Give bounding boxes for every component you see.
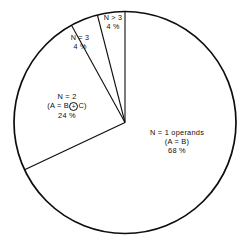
slice-label-n2: N = 2 (A = B+C) 24 % [26, 92, 108, 120]
pie-chart-figure: N = 1 operands (A = B) 68 % N = 2 (A = B… [0, 0, 250, 248]
slice-label-n2-percent: 24 % [26, 111, 108, 120]
slice-label-n3: N = 3 4 % [58, 34, 102, 52]
slice-label-ngt3-percent: 4 % [95, 23, 131, 32]
slice-label-n2-expression: (A = B+C) [26, 101, 108, 111]
slice-label-n1-expression: (A = B) [134, 137, 220, 146]
slice-label-n2-expr-open: (A = B [47, 101, 69, 110]
slice-label-n1-percent: 68 % [134, 146, 220, 155]
slice-label-n1: N = 1 operands (A = B) 68 % [134, 128, 220, 155]
slice-label-n2-expr-close: C) [78, 101, 86, 110]
slice-label-ngt3: N > 3 4 % [95, 14, 131, 32]
pie-chart-graphic [0, 0, 250, 248]
slice-label-n1-line1: N = 1 operands [134, 128, 220, 137]
slice-label-n3-percent: 4 % [58, 43, 102, 52]
slice-label-n2-line1: N = 2 [26, 92, 108, 101]
